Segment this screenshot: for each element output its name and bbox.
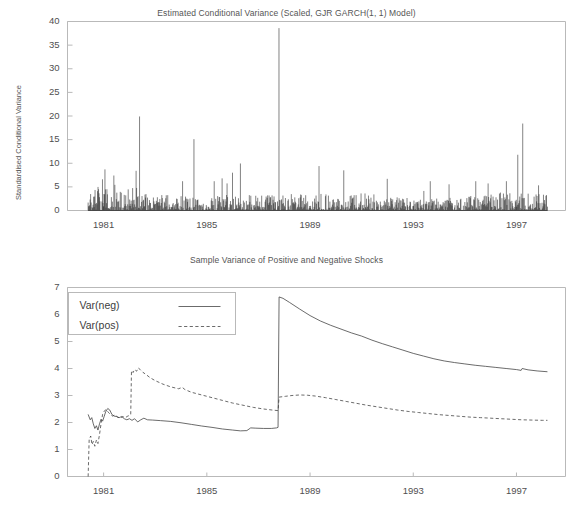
sample-variance-panel: Sample Variance of Positive and Negative…: [0, 248, 573, 530]
x-tick-label: 1993: [403, 485, 424, 496]
y-tick-label: 5: [54, 180, 59, 191]
x-tick-label: 1981: [93, 219, 114, 230]
y-tick-label: 35: [49, 39, 60, 50]
series-standardised-conditional-variance: [88, 28, 547, 210]
y-tick-label: 0: [54, 204, 59, 215]
y-tick-label: 15: [49, 133, 60, 144]
plot-frame: [68, 22, 566, 211]
y-tick-label: 10: [49, 157, 60, 168]
legend: Var(neg)Var(pos): [69, 293, 236, 335]
x-tick-label: 1997: [506, 219, 527, 230]
legend-label-1: Var(pos): [80, 319, 119, 331]
y-tick-label: 40: [49, 15, 60, 26]
x-tick-label: 1985: [196, 485, 217, 496]
y-tick-label: 20: [49, 110, 60, 121]
legend-label-0: Var(neg): [80, 299, 120, 311]
x-tick-label: 1989: [299, 485, 320, 496]
y-tick-label: 3: [54, 389, 59, 400]
y-tick-label: 0: [54, 470, 59, 481]
conditional-variance-panel: Estimated Conditional Variance (Scaled, …: [0, 0, 573, 248]
x-tick-label: 1997: [506, 485, 527, 496]
plot-area-sample-variance: 0123456719811985198919931997Var(neg)Var(…: [0, 248, 573, 530]
x-tick-label: 1989: [299, 219, 320, 230]
series-varpos: [88, 368, 547, 477]
y-tick-label: 25: [49, 86, 60, 97]
x-tick-label: 1993: [403, 219, 424, 230]
plot-area-conditional-variance: 051015202530354019811985198919931997: [0, 0, 573, 248]
y-tick-label: 7: [54, 281, 59, 292]
y-tick-label: 1: [54, 443, 59, 454]
x-tick-label: 1981: [93, 485, 114, 496]
y-tick-label: 30: [49, 62, 60, 73]
y-tick-label: 6: [54, 308, 59, 319]
x-tick-label: 1985: [196, 219, 217, 230]
y-tick-label: 2: [54, 416, 59, 427]
y-tick-label: 5: [54, 335, 59, 346]
y-tick-label: 4: [54, 362, 59, 373]
